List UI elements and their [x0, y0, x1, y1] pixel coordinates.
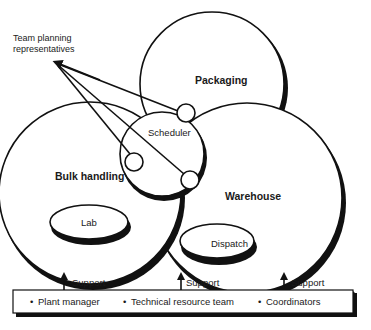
support-item-1: • Plant manager [30, 296, 100, 307]
bulk-handling-label: Bulk handling [55, 170, 124, 182]
support-label-2: Support [186, 277, 220, 288]
warehouse-label: Warehouse [225, 190, 281, 202]
representative-circle-2 [125, 153, 143, 171]
representative-circle-1 [177, 104, 195, 122]
team-structure-diagram: Team planning representatives Packaging … [0, 0, 371, 330]
support-label-3: Support [291, 277, 325, 288]
support-item-label-2: Technical resource team [131, 296, 234, 307]
bullet: • [258, 296, 261, 307]
scheduler-label: Scheduler [148, 127, 191, 138]
support-label-1: Support [72, 277, 106, 288]
dispatch-label: Dispatch [211, 238, 248, 249]
annotation-line1: Team planning [13, 33, 72, 43]
support-item-2: • Technical resource team [123, 296, 234, 307]
bullet: • [30, 296, 33, 307]
support-item-3: • Coordinators [258, 296, 321, 307]
annotation-line2: representatives [13, 44, 75, 54]
support-item-label-3: Coordinators [266, 296, 321, 307]
support-item-label-1: Plant manager [38, 296, 100, 307]
arrow-up-icon [177, 272, 185, 280]
packaging-label: Packaging [195, 74, 248, 86]
representative-circle-3 [181, 171, 199, 189]
lab-label: Lab [81, 217, 97, 228]
bullet: • [123, 296, 126, 307]
